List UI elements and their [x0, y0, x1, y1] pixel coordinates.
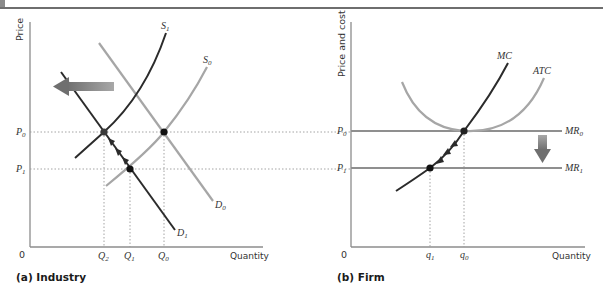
curve-label-mc: MC [496, 50, 512, 61]
guide-lines [30, 132, 351, 247]
curve-label-s0: S0 [203, 54, 212, 67]
mc-curve [396, 63, 508, 191]
point-mc-mr0 [460, 127, 467, 134]
supply-shift-arrow-icon [53, 77, 114, 96]
panel-firm: Price and cost P0 P1 0 q1 q0 Quantity MC… [336, 10, 592, 262]
figure: Price P0 P1 0 Q2 Q1 Q0 Quantity S1 S0 D0… [0, 0, 603, 295]
supply-curve-s0 [106, 67, 207, 186]
equilibrium-point-initial [160, 128, 167, 135]
curve-label-d1: D1 [176, 227, 188, 240]
curve-label-mr0: MR0 [564, 125, 583, 138]
price-label-p0: P0 [15, 126, 26, 139]
origin-label: 0 [19, 249, 25, 260]
equilibrium-point-short-run [126, 165, 133, 172]
quantity-label-q1: Q1 [124, 250, 135, 263]
supply-curve-s1 [75, 33, 166, 158]
price-label-p1: P1 [15, 163, 26, 176]
origin-label: 0 [341, 249, 347, 260]
curve-label-atc: ATC [532, 65, 551, 76]
x-axis-label: Quantity [230, 251, 270, 261]
curve-label-s1: S1 [161, 20, 170, 33]
x-axis-label: Quantity [552, 251, 592, 261]
atc-curve [402, 78, 544, 131]
quantity-label-q2: Q2 [98, 250, 109, 263]
panel-industry: Price P0 P1 0 Q2 Q1 Q0 Quantity S1 S0 D0… [14, 18, 351, 263]
caption-industry: (a) Industry [16, 271, 86, 283]
curve-label-d0: D0 [214, 199, 226, 212]
mr-shift-arrow-icon [534, 135, 551, 163]
equilibrium-point-long-run [100, 128, 107, 135]
price-label-p1: P1 [336, 162, 347, 175]
curve-label-mr1: MR1 [564, 162, 583, 175]
quantity-label-q0: Q0 [158, 250, 169, 263]
point-mc-mr1 [426, 164, 433, 171]
y-axis-label: Price and cost [336, 10, 347, 77]
guide-lines [430, 131, 464, 247]
quantity-label-q1: q1 [426, 249, 435, 262]
caption-firm: (b) Firm [337, 271, 385, 283]
quantity-label-q0: q0 [460, 249, 469, 262]
adjustment-arrowheads [436, 140, 458, 164]
adjustment-arrowheads [108, 138, 129, 165]
price-label-p0: P0 [336, 125, 347, 138]
y-axis-label: Price [14, 18, 25, 41]
